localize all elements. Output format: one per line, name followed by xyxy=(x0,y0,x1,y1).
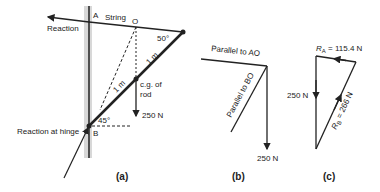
hinge-label: Reaction at hinge xyxy=(17,127,80,136)
statics-diagram: A String O Reaction 50° 1 m 1 m c.g. of … xyxy=(0,0,380,192)
angle-top: 50° xyxy=(157,34,169,43)
label-string: String xyxy=(105,13,126,22)
rod-end-dot xyxy=(181,30,186,35)
caption-a: (a) xyxy=(116,171,128,182)
len-lower: 1 m xyxy=(111,78,127,94)
ra-label: RA = 115.4 N xyxy=(316,44,363,54)
ao-line xyxy=(201,59,267,66)
cg-label-1: c.g. of xyxy=(140,80,163,89)
figure-c: RA = 115.4 N 250 N RB = 266 N (c) xyxy=(287,44,363,182)
label-o: O xyxy=(132,17,138,26)
figure-b: Parallel to AO Parallel to BO 250 N (b) xyxy=(201,44,279,182)
ra-arrowhead xyxy=(334,59,346,61)
label-parallel-ao: Parallel to AO xyxy=(211,44,261,58)
label-b: B xyxy=(93,129,98,138)
label-reaction: Reaction xyxy=(47,24,79,33)
figure-a: A String O Reaction 50° 1 m 1 m c.g. of … xyxy=(17,6,186,182)
weight-label-b: 250 N xyxy=(257,154,279,163)
weight-label: 250 N xyxy=(142,111,164,120)
cg-label-2: rod xyxy=(140,90,152,99)
caption-b: (b) xyxy=(232,171,245,182)
angle-bottom: 45° xyxy=(98,116,110,125)
reaction-arrow xyxy=(48,17,89,22)
hinge-dot xyxy=(87,124,92,129)
label-a: A xyxy=(93,11,99,20)
w-label-c: 250 N xyxy=(287,91,309,100)
len-upper: 1 m xyxy=(144,50,160,66)
caption-c: (c) xyxy=(323,171,335,182)
